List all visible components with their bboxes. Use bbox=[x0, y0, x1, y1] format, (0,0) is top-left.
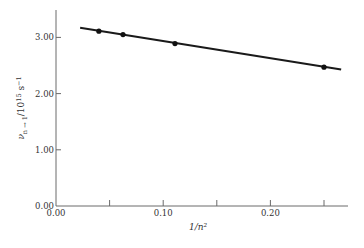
y-tick-label: 2.00 bbox=[35, 89, 54, 99]
chart: 0.000.100.20 0.001.002.003.00 1/n² νn → … bbox=[0, 0, 364, 248]
plot-axes bbox=[56, 10, 348, 206]
x-tick-label: 0.10 bbox=[154, 208, 173, 218]
x-tick-label: 0.20 bbox=[261, 208, 280, 218]
y-label-unit-sup: −1 bbox=[15, 76, 23, 86]
fit-line bbox=[80, 28, 341, 70]
y-label-sup: 15 bbox=[15, 93, 23, 101]
y-tick-label: 1.00 bbox=[35, 145, 54, 155]
y-tick-labels: 0.001.002.003.00 bbox=[35, 32, 54, 211]
data-point bbox=[321, 65, 326, 70]
y-axis-label: νn → 1/1015 s−1 bbox=[15, 76, 29, 139]
data-point bbox=[96, 29, 101, 34]
x-tick-labels: 0.000.100.20 bbox=[47, 208, 280, 218]
y-label-rest: /10 bbox=[16, 101, 26, 116]
y-label-sub: n → 1 bbox=[21, 116, 29, 134]
svg-text:νn → 1/1015 s−1: νn → 1/1015 s−1 bbox=[15, 76, 29, 139]
series-layer bbox=[80, 28, 341, 70]
x-axis-label: 1/n² bbox=[189, 222, 208, 232]
data-point bbox=[172, 41, 177, 46]
x-ticks bbox=[110, 200, 324, 206]
y-tick-label: 0.00 bbox=[35, 201, 54, 211]
y-tick-label: 3.00 bbox=[35, 32, 54, 42]
y-ticks bbox=[56, 37, 61, 149]
data-point bbox=[120, 32, 125, 37]
